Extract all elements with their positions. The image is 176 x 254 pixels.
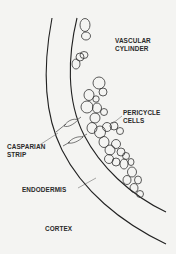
label-pericycle-cells: PERICYCLE CELLS <box>123 109 160 124</box>
label-casparian-strip: CASPARIAN STRIP <box>7 143 45 158</box>
label-cortex-text: CORTEX <box>45 225 72 233</box>
label-casparian-line2: STRIP <box>7 151 45 159</box>
label-pericycle-line1: PERICYCLE <box>123 109 160 117</box>
label-endodermis: ENDODERMIS <box>22 186 66 194</box>
pericycle-cell <box>135 176 142 184</box>
pericycle-cell <box>112 140 121 149</box>
pericycle-cell <box>93 77 105 89</box>
label-vascular-cylinder: VASCULAR CYLINDER <box>115 37 151 52</box>
pericycle-cell <box>128 159 134 166</box>
pericycle-cell <box>128 167 137 177</box>
pericycle-cell <box>117 128 124 135</box>
pericycle-cell <box>101 109 108 116</box>
pericycle-cell <box>99 88 107 96</box>
pericycle-cell <box>117 148 125 156</box>
pericycle-cell <box>81 101 93 113</box>
label-vascular-line2: CYLINDER <box>115 45 151 53</box>
pericycle-cell <box>123 153 130 160</box>
pericycle-cell <box>130 184 138 193</box>
pericycle-cell <box>120 159 128 169</box>
pericycle-cell <box>84 90 94 101</box>
label-pericycle-line2: CELLS <box>123 117 160 125</box>
root-diagram: VASCULAR CYLINDER PERICYCLE CELLS CASPAR… <box>0 0 176 254</box>
pericycle-cell <box>90 113 100 123</box>
pericycle-cell <box>105 145 115 155</box>
label-endodermis-text: ENDODERMIS <box>22 186 66 194</box>
pericycle-cell <box>82 32 91 40</box>
pericycle-cell <box>72 59 80 69</box>
label-casparian-line1: CASPARIAN <box>7 143 45 151</box>
label-vascular-line1: VASCULAR <box>115 37 151 45</box>
label-cortex: CORTEX <box>45 225 72 233</box>
pericycle-cell <box>112 158 120 166</box>
pericycle-cell <box>80 19 90 32</box>
casparian-strip-lower <box>63 134 87 146</box>
pericycle-cell <box>123 176 131 185</box>
